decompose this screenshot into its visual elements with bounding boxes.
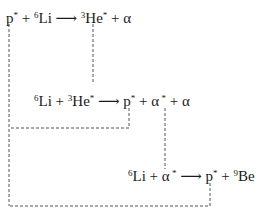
r3-reactant-alpha-star: α * [162, 168, 177, 184]
r2-product-alpha: α [182, 93, 190, 109]
r1-reactant-p: p* [6, 10, 18, 26]
r1-product-he3: 3He* [81, 10, 108, 26]
reaction-1: p* + 6Li ⟶ 3He* + α [6, 6, 131, 27]
plus-sign: + [111, 10, 119, 26]
reaction-3: 6Li + α * ⟶ p* + 9Be [128, 164, 255, 185]
p-star-row3-return-line [9, 183, 210, 206]
r3-product-be9: 9Be [233, 168, 254, 184]
reaction-2: 6Li + 3He* ⟶ p* + α * + α [34, 89, 190, 110]
plus-sign: + [150, 168, 158, 184]
plus-sign: + [170, 93, 178, 109]
plus-sign: + [139, 93, 147, 109]
r3-reactant-li6: 6Li [128, 168, 146, 184]
r1-product-alpha: α [123, 10, 131, 26]
arrow-icon: ⟶ [98, 93, 120, 109]
plus-sign: + [221, 168, 229, 184]
arrow-icon: ⟶ [56, 10, 78, 26]
r2-reactant-li6: 6Li [34, 93, 52, 109]
r2-product-alpha-star: α * [151, 93, 166, 109]
arrow-icon: ⟶ [180, 168, 202, 184]
r1-reactant-li6: 6Li [34, 10, 52, 26]
plus-sign: + [22, 10, 30, 26]
plus-sign: + [56, 93, 64, 109]
r3-product-p: p* [205, 168, 217, 184]
r2-product-p: p* [123, 93, 135, 109]
r2-reactant-he3: 3He* [68, 93, 95, 109]
p-star-row2-return-line [9, 108, 129, 128]
